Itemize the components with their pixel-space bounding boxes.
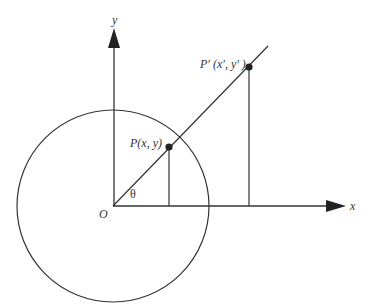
theta-label: θ — [130, 187, 136, 201]
y-axis-arrowhead-icon — [108, 28, 120, 48]
y-axis-label: y — [111, 13, 118, 27]
origin-label: O — [99, 207, 108, 221]
rotation-diagram: y x O θ P(x, y) P′ (x′, y′ ) — [0, 0, 369, 308]
point-p-prime-label: P′ (x′, y′ ) — [199, 57, 246, 71]
point-p-prime — [245, 63, 252, 70]
point-p — [165, 143, 172, 150]
point-p-label: P(x, y) — [129, 136, 162, 150]
x-axis-arrowhead-icon — [326, 200, 346, 212]
x-axis-label: x — [349, 199, 356, 213]
